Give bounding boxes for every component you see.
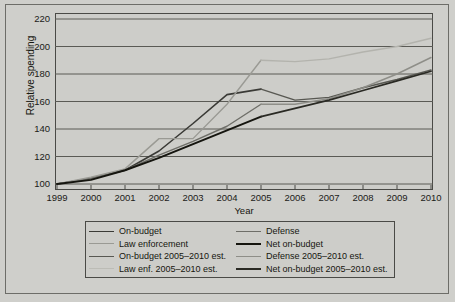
legend-item-label: On-budget 2005–2010 est. [119, 250, 226, 262]
legend-item-label: Defense 2005–2010 est. [266, 250, 364, 262]
y-tick-label: 160 [10, 97, 50, 107]
y-tick-label: 200 [10, 42, 50, 52]
y-tick-label: 120 [10, 152, 50, 162]
legend-line-swatch [89, 256, 114, 257]
y-tick-label: 140 [10, 124, 50, 134]
legend-item[interactable]: On-budget 2005–2010 est. [89, 250, 241, 263]
legend-item[interactable]: On-budget [89, 225, 241, 238]
x-tick-label: 2002 [148, 192, 169, 203]
legend-item-label: Net on-budget [266, 238, 323, 250]
series-line [57, 104, 261, 184]
x-tick-label: 2007 [318, 192, 339, 203]
legend-column-left: On-budgetLaw enforcementOn-budget 2005–2… [89, 225, 241, 276]
series-line [57, 60, 261, 184]
legend-item-label: Net on-budget 2005–2010 est. [266, 263, 388, 275]
x-tick-label: 2004 [216, 192, 237, 203]
legend-item[interactable]: Defense 2005–2010 est. [236, 250, 388, 263]
legend-line-swatch [236, 243, 261, 245]
legend-line-swatch [236, 231, 261, 232]
legend-line-swatch [236, 268, 261, 270]
x-axis-title: Year [55, 205, 433, 216]
legend-item[interactable]: Net on-budget [236, 238, 388, 251]
legend-line-swatch [236, 256, 261, 257]
y-tick-label: 180 [10, 69, 50, 79]
legend-column-right: DefenseNet on-budgetDefense 2005–2010 es… [236, 225, 388, 276]
series-line [57, 89, 261, 184]
y-tick-label: 220 [10, 14, 50, 24]
x-tick-label: 2001 [114, 192, 135, 203]
legend-line-swatch [89, 231, 114, 232]
y-tick-label: 100 [10, 179, 50, 189]
legend-line-swatch [89, 268, 114, 269]
plot-area [55, 13, 433, 190]
y-axis-tick-labels: 220200180160140120100 [8, 13, 50, 190]
x-tick-label: 2003 [182, 192, 203, 203]
legend-item[interactable]: Net on-budget 2005–2010 est. [236, 263, 388, 276]
legend-item-label: Law enf. 2005–2010 est. [119, 263, 218, 275]
legend-item-label: Defense [266, 225, 300, 237]
legend-item-label: Law enforcement [119, 238, 188, 250]
x-tick-label: 2009 [386, 192, 407, 203]
x-tick-label: 2000 [80, 192, 101, 203]
chart-lines [55, 13, 433, 190]
legend-item-label: On-budget [119, 225, 162, 237]
x-tick-label: 2010 [420, 192, 441, 203]
legend-item[interactable]: Law enf. 2005–2010 est. [89, 263, 241, 276]
legend-line-swatch [89, 243, 114, 244]
legend-item[interactable]: Law enforcement [89, 238, 241, 251]
x-tick-label: 1999 [46, 192, 67, 203]
x-tick-label: 2006 [284, 192, 305, 203]
chart-legend: On-budgetLaw enforcementOn-budget 2005–2… [85, 221, 395, 278]
figure-container: Relative spending 220200180160140120100 … [0, 0, 455, 302]
x-axis-tick-labels: 1999200020012002200320042005200620072008… [55, 192, 433, 206]
legend-item[interactable]: Defense [236, 225, 388, 238]
series-line [261, 38, 431, 61]
x-tick-label: 2005 [250, 192, 271, 203]
x-tick-label: 2008 [352, 192, 373, 203]
